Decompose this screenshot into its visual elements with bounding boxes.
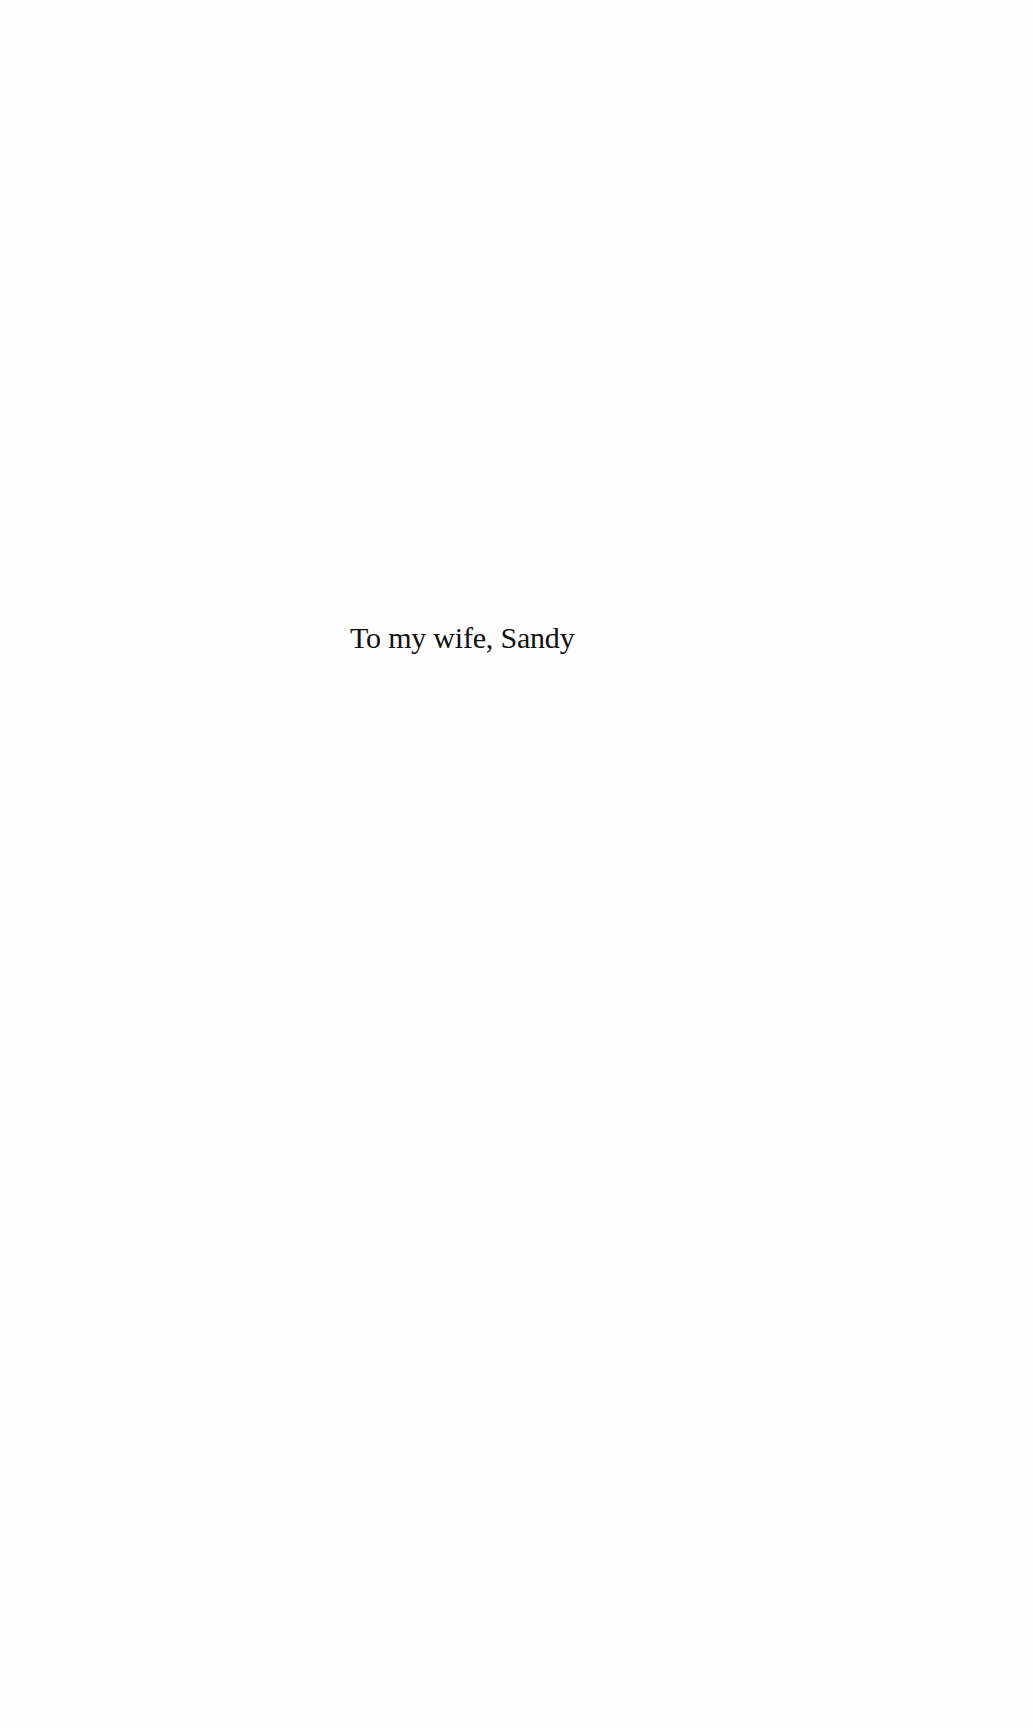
dedication-text: To my wife, Sandy: [350, 620, 574, 656]
book-page: To my wife, Sandy: [0, 0, 1033, 1728]
